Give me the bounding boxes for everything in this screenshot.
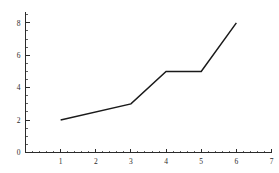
x-tick-label: 1 [59,157,63,166]
x-tick-label: 3 [129,157,133,166]
x-tick-label: 6 [234,157,238,166]
y-axis-tick-labels: 02468 [17,19,21,158]
chart-figure: 1234567 02468 [0,0,279,173]
x-tick-label: 5 [199,157,203,166]
y-axis-major-ticks [26,23,30,153]
y-tick-label: 4 [17,83,21,92]
x-tick-label: 4 [164,157,168,166]
y-tick-label: 6 [17,51,21,60]
x-tick-label: 2 [94,157,98,166]
x-axis-tick-labels: 1234567 [59,157,274,166]
line-chart-canvas: 1234567 02468 [0,0,279,173]
data-series-line [61,23,237,120]
x-tick-label: 7 [270,157,274,166]
x-axis-major-ticks [61,149,272,153]
y-tick-label: 2 [17,116,21,125]
y-tick-label: 8 [17,19,21,28]
y-tick-label: 0 [17,148,21,157]
